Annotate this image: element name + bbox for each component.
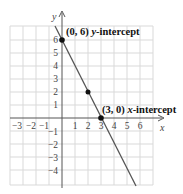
svg-text:−3: −3 [48, 153, 58, 163]
svg-text:3: 3 [53, 74, 58, 84]
svg-text:1: 1 [73, 121, 78, 131]
svg-text:4: 4 [112, 121, 117, 131]
x-axis-label: x [159, 122, 165, 133]
point-y-intercept [59, 37, 65, 43]
svg-text:−1: −1 [48, 127, 58, 137]
svg-text:1: 1 [53, 100, 58, 110]
point-2-2 [86, 90, 91, 95]
svg-text:−3: −3 [12, 121, 22, 131]
y-intercept-annotation: (0, 6) y-intercept [66, 26, 140, 38]
svg-text:−2: −2 [26, 121, 36, 131]
svg-text:5: 5 [53, 48, 58, 58]
svg-text:3: 3 [99, 121, 104, 131]
axes [10, 11, 164, 188]
svg-text:2: 2 [86, 121, 91, 131]
svg-text:5: 5 [125, 121, 130, 131]
svg-text:6: 6 [53, 35, 58, 45]
point-x-intercept [98, 115, 104, 121]
graph: y x −3 −2 −1 1 2 3 4 5 6 6 5 4 3 2 1 −1 … [0, 0, 183, 194]
svg-text:−4: −4 [48, 166, 58, 176]
x-intercept-annotation: (3, 0) x-intercept [102, 104, 177, 116]
svg-text:4: 4 [53, 61, 58, 71]
svg-text:6: 6 [138, 121, 143, 131]
y-axis-label: y [51, 11, 57, 22]
svg-text:2: 2 [53, 87, 58, 97]
x-tick-labels: −3 −2 −1 1 2 3 4 5 6 [12, 121, 143, 131]
svg-text:−2: −2 [48, 140, 58, 150]
